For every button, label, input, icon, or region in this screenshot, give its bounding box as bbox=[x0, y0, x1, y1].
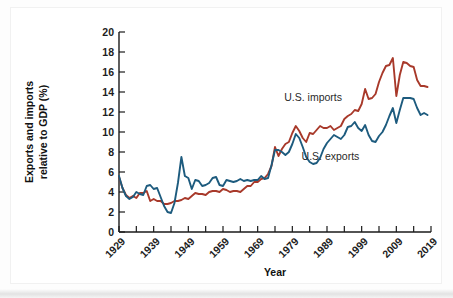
y-tick-label: 14 bbox=[102, 86, 114, 98]
series-line-u-s-imports bbox=[119, 58, 428, 204]
y-tick-label: 0 bbox=[108, 226, 114, 238]
y-tick-label: 18 bbox=[102, 46, 114, 58]
x-tick-label: 1999 bbox=[345, 235, 370, 260]
x-tick-label: 1939 bbox=[137, 235, 162, 260]
y-axis-title-line2: relative to GDP (%) bbox=[37, 85, 49, 179]
y-tick-label: 20 bbox=[102, 26, 114, 38]
x-tick-label: 1969 bbox=[241, 235, 266, 260]
y-axis-title-line1: Exports and imports bbox=[23, 81, 35, 183]
x-tick-label: 1929 bbox=[102, 235, 127, 260]
y-tick-label: 10 bbox=[102, 126, 114, 138]
line-chart: 02468101214161820 1929193919491959196919… bbox=[11, 8, 443, 285]
x-tick-label: 2009 bbox=[380, 235, 405, 260]
y-tick-label: 4 bbox=[108, 186, 114, 198]
page-scan-shadow bbox=[0, 289, 453, 298]
y-axis-ticks: 02468101214161820 bbox=[102, 26, 125, 238]
x-axis-ticks: 1929193919491959196919791989199920092019 bbox=[102, 226, 439, 260]
y-tick-label: 12 bbox=[102, 106, 114, 118]
series-label-u-s-exports: U.S. exports bbox=[302, 150, 360, 162]
series-lines bbox=[119, 58, 428, 213]
chart-card-inner: 02468101214161820 1929193919491959196919… bbox=[10, 7, 442, 284]
y-tick-label: 2 bbox=[108, 206, 114, 218]
x-tick-label: 1989 bbox=[310, 235, 335, 260]
x-tick-label: 1979 bbox=[276, 235, 301, 260]
series-line-u-s-exports bbox=[119, 98, 428, 213]
y-tick-label: 16 bbox=[102, 66, 114, 78]
y-tick-label: 6 bbox=[108, 166, 114, 178]
x-tick-label: 2019 bbox=[414, 235, 439, 260]
y-tick-label: 8 bbox=[108, 146, 114, 158]
figure-card: 02468101214161820 1929193919491959196919… bbox=[0, 0, 453, 298]
x-tick-label: 1949 bbox=[172, 235, 197, 260]
x-axis-title: Year bbox=[264, 266, 286, 278]
series-label-u-s-imports: U.S. imports bbox=[284, 91, 342, 103]
x-tick-label: 1959 bbox=[206, 235, 231, 260]
